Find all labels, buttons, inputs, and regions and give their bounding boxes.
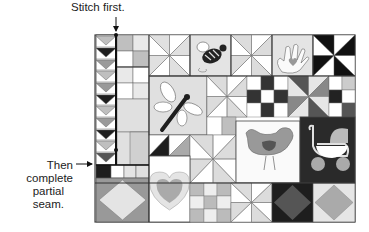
pinwheel-gray [288,76,329,117]
half-square-triangles [149,135,190,156]
heart-applique [149,156,190,222]
bee-applique [190,35,231,76]
diamond-in-square-left [96,178,149,222]
nine-patch-right [329,76,355,117]
dragonfly-applique [149,76,207,135]
four-patch-bottom [190,183,231,222]
diamond-light [313,183,355,222]
pinwheel-black [313,35,355,76]
pinwheel-light-top [149,35,190,76]
nine-patch-dark [247,76,288,117]
pinwheel-top-middle [231,35,272,76]
four-patch-top-left [117,35,149,165]
diamond-dark [272,183,313,222]
pinwheel-bottom [231,183,272,222]
partial-seam-strip [96,165,149,178]
small-patches [207,117,236,135]
bird-applique [236,121,300,183]
quilt-diagram [0,0,369,232]
pinwheel-middle [207,76,247,117]
flying-geese-column [96,35,116,165]
baby-carriage-applique [300,117,355,183]
hand-heart-applique [272,35,313,76]
pinwheel-lower [190,135,236,183]
